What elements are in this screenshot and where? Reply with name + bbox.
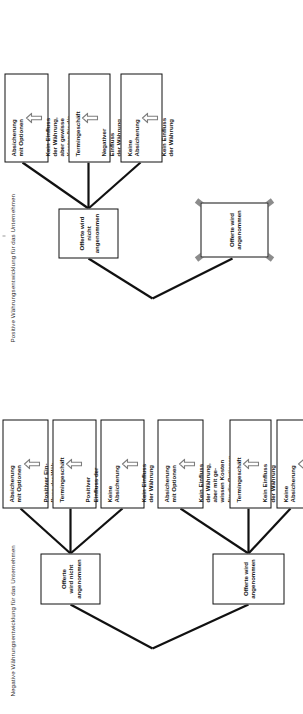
outcome-title: Termingeschäft [73,111,80,156]
outcome-desc: Negativer Einfluss der Währung [99,118,121,156]
decision-node-neg-accepted[interactable]: Offerte wird angenommen [212,553,284,604]
outcome-title: Termingeschäft [234,457,241,502]
up-arrow-icon [65,458,82,469]
up-arrow-icon [178,458,195,469]
outcome-neg-na-termin[interactable]: Termingeschäft Positiver Einfluss der Wä… [52,419,96,508]
up-arrow-icon [141,112,158,123]
decision-node-pos-accepted[interactable]: Offerte wird angenommen [200,202,268,257]
outcome-title: Absicherung mit Optionen [7,464,22,502]
header-positive: Positive Währungsentwicklung für das Unt… [8,193,15,342]
header-negative: Negative Währungsentwicklung für das Unt… [8,545,15,696]
up-arrow-icon [297,458,303,469]
decision-label: Offerte wird angenommen [227,210,242,250]
decision-label: Offerte wird angenommen [241,559,256,599]
outcome-desc: Kein Einfluss der Währung, aber mit ge- … [196,455,232,502]
decision-label: Offerte wird nicht angenommen [77,212,99,254]
outcome-title: Absicherung mit Optionen [162,464,177,502]
outcome-pos-na-keine[interactable]: Keine Absicherung Kein Einfluss der Währ… [120,73,162,162]
up-arrow-icon [23,458,40,469]
decision-node-neg-not-accepted[interactable]: Offerte wird nicht angenommen [40,553,100,604]
up-arrow-icon [81,112,98,123]
outcome-title: Absicherung mit Optionen [9,118,24,156]
decision-node-pos-not-accepted[interactable]: Offerte wird nicht angenommen [58,208,118,258]
outcome-neg-a-termin[interactable]: Termingeschäft Kein Einfluss der Währung [229,419,271,508]
outcome-desc: Kein Einfluss der Währung [139,463,154,502]
outcome-desc: Kein Einfluss der Währung [260,463,275,502]
page-mark [2,235,5,236]
outcome-neg-na-optionen[interactable]: Absicherung mit Optionen Positiver Ein- … [2,419,48,508]
outcome-title: Keine Absicherung [105,465,120,502]
outcome-neg-na-keine[interactable]: Keine Absicherung Kein Einfluss der Währ… [100,419,144,508]
up-arrow-icon [121,458,138,469]
outcome-title: Keine Absicherung [125,119,140,156]
outcome-pos-na-termin[interactable]: Termingeschäft Negativer Einfluss der Wä… [68,73,110,162]
decision-label: Offerte wird nicht angenommen [59,559,81,599]
outcome-desc: Kein Einfluss der Währung [159,117,174,156]
up-arrow-icon [25,112,42,123]
outcome-title: Termingeschäft [57,457,64,502]
diagram-canvas: Negative Währungsentwicklung für das Unt… [0,0,303,714]
outcome-pos-na-optionen[interactable]: Absicherung mit Optionen Kein Einfluss d… [4,73,48,162]
outcome-neg-a-keine[interactable]: Keine Absicherung Negativer Ein- fluss d… [276,419,303,508]
outcome-title: Keine Absicherung [281,465,296,502]
outcome-neg-a-optionen[interactable]: Absicherung mit Optionen Kein Einfluss d… [157,419,203,508]
up-arrow-icon [242,458,259,469]
